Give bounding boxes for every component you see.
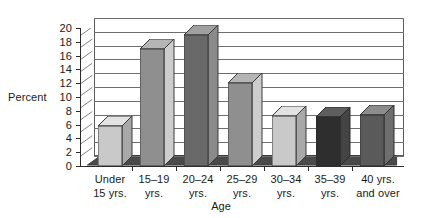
x-tick-label-line1: 40 yrs. — [348, 173, 408, 187]
x-tick-label-line2: 15 yrs. — [86, 187, 134, 201]
x-tick-label-line2: yrs. — [262, 187, 310, 201]
x-tick-label-line2: yrs. — [218, 187, 266, 201]
x-tick-mark — [264, 167, 265, 171]
x-tick-label-line1: Under — [86, 173, 134, 187]
y-tick-label: 18 — [50, 37, 72, 48]
bar-30-34-yrs — [272, 116, 296, 166]
y-tick-label: 2 — [50, 147, 72, 158]
x-tick-label-line1: 30–34 — [262, 173, 310, 187]
bar-under-15-yrs — [98, 126, 122, 166]
y-tick-label: 4 — [50, 133, 72, 144]
x-tick-label-30-34-yrs: 30–34 yrs. — [262, 173, 310, 200]
x-tick-label-line1: 35–39 — [306, 173, 354, 187]
x-axis-line — [80, 166, 404, 167]
x-tick-label-line1: 25–29 — [218, 173, 266, 187]
bar-20-24-yrs — [184, 35, 208, 166]
x-tick-label-25-29-yrs: 25–29 yrs. — [218, 173, 266, 200]
x-tick-label-line1: 15–19 — [130, 173, 178, 187]
x-tick-label-line2: yrs. — [306, 187, 354, 201]
y-tick-mark — [76, 152, 80, 153]
plot-side-wall — [80, 28, 94, 166]
x-tick-label-40-yrs-and-over: 40 yrs. and over — [348, 173, 408, 200]
y-tick-mark — [76, 166, 80, 167]
y-tick-label: 8 — [50, 106, 72, 117]
y-tick-mark — [76, 83, 80, 84]
x-tick-mark — [220, 167, 221, 171]
x-tick-mark — [352, 167, 353, 171]
y-tick-mark — [76, 125, 80, 126]
y-tick-mark — [76, 28, 80, 29]
y-axis-line — [80, 28, 81, 167]
y-tick-mark — [76, 111, 80, 112]
bar-chart: 20 18 16 14 12 10 8 6 4 2 0 Percent Unde… — [0, 0, 436, 218]
y-tick-mark — [76, 97, 80, 98]
bar-40-yrs-and-over — [360, 115, 384, 166]
y-tick-label: 16 — [50, 51, 72, 62]
x-tick-label-line2: and over — [348, 187, 408, 201]
x-tick-label-under-15-yrs: Under 15 yrs. — [86, 173, 134, 200]
x-tick-label-line2: yrs. — [174, 187, 222, 201]
gridline — [94, 18, 404, 19]
gridline — [94, 32, 404, 33]
y-axis-title: Percent — [8, 91, 47, 103]
y-tick-mark — [76, 42, 80, 43]
y-tick-label: 6 — [50, 120, 72, 131]
x-tick-label-20-24-yrs: 20–24 yrs. — [174, 173, 222, 200]
x-tick-label-35-39-yrs: 35–39 yrs. — [306, 173, 354, 200]
y-tick-mark — [76, 138, 80, 139]
x-axis-title: Age — [196, 200, 246, 212]
bar-35-39-yrs — [316, 117, 340, 166]
y-tick-mark — [76, 56, 80, 57]
bar-15-19-yrs — [140, 49, 164, 166]
y-tick-mark — [76, 69, 80, 70]
x-tick-mark — [132, 167, 133, 171]
x-tick-label-line1: 20–24 — [174, 173, 222, 187]
y-tick-label: 14 — [50, 64, 72, 75]
x-tick-mark — [176, 167, 177, 171]
y-tick-label: 0 — [50, 161, 72, 172]
x-tick-label-line2: yrs. — [130, 187, 178, 201]
y-tick-label: 20 — [50, 23, 72, 34]
x-tick-label-15-19-yrs: 15–19 yrs. — [130, 173, 178, 200]
y-tick-label: 12 — [50, 78, 72, 89]
bar-25-29-yrs — [228, 83, 252, 166]
y-tick-label: 10 — [50, 92, 72, 103]
x-tick-mark — [308, 167, 309, 171]
